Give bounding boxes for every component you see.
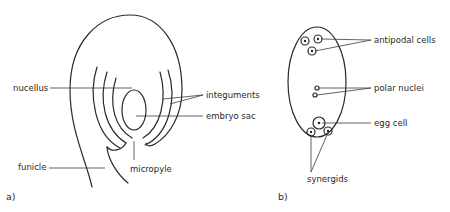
label-embryo-sac: embryo sac bbox=[206, 111, 256, 121]
label-synergids: synergids bbox=[307, 174, 349, 184]
panel-b-tag: b) bbox=[278, 191, 288, 202]
synergid-nucleus bbox=[310, 131, 312, 133]
embryo-sac-outline bbox=[288, 27, 346, 137]
synergid-nucleus bbox=[327, 130, 329, 132]
label-micropyle: micropyle bbox=[130, 164, 172, 174]
ovule-outline bbox=[70, 15, 182, 187]
antipodal-nucleus bbox=[304, 40, 306, 42]
panel-b-embryo-sac: antipodal cells polar nuclei egg cell sy… bbox=[278, 27, 436, 202]
funicle-edge bbox=[107, 147, 128, 183]
label-polar-nuclei: polar nuclei bbox=[374, 83, 424, 93]
panel-a-tag: a) bbox=[6, 191, 16, 202]
embryo-sac-shape bbox=[122, 90, 146, 130]
polar-nuclei-leader bbox=[317, 88, 371, 95]
polar-nuclei bbox=[313, 86, 319, 97]
antipodal-nucleus bbox=[317, 38, 319, 40]
label-egg-cell: egg cell bbox=[374, 118, 407, 128]
antipodal-nucleus bbox=[311, 50, 313, 52]
antipodal-cells bbox=[301, 35, 322, 55]
label-antipodal-cells: antipodal cells bbox=[374, 35, 436, 45]
panel-a-ovule: nucellus integuments embryo sac funicle … bbox=[6, 15, 260, 202]
antipodal-leader bbox=[315, 39, 371, 51]
integuments-leader bbox=[163, 95, 203, 104]
ovule-diagram: nucellus integuments embryo sac funicle … bbox=[0, 0, 450, 212]
label-nucellus: nucellus bbox=[13, 83, 49, 93]
egg-nucleus bbox=[318, 122, 321, 125]
synergids-leader bbox=[311, 135, 327, 172]
polar-nucleus bbox=[313, 93, 317, 97]
label-funicle: funicle bbox=[18, 162, 46, 172]
polar-nucleus bbox=[315, 86, 319, 90]
label-integuments: integuments bbox=[206, 90, 260, 100]
